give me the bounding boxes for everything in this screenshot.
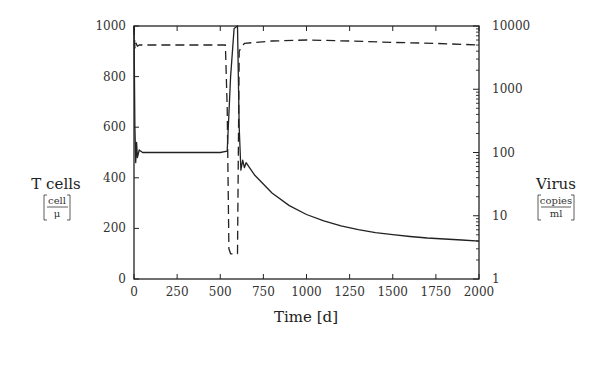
x-tick-label: 250 bbox=[166, 285, 189, 299]
x-tick-label: 2000 bbox=[464, 285, 495, 299]
svg-text:cell: cell bbox=[48, 195, 66, 206]
svg-text:Virus: Virus bbox=[535, 175, 576, 193]
y-right-tick-label: 10000 bbox=[492, 19, 530, 33]
tcell-series-line bbox=[134, 26, 479, 241]
x-tick-label: 1750 bbox=[421, 285, 452, 299]
chart: 025050075010001250150017502000 020040060… bbox=[0, 0, 609, 367]
y-right-tick-label: 100 bbox=[492, 146, 515, 160]
y-left-tick-label: 400 bbox=[103, 171, 126, 185]
y-left-tick-label: 0 bbox=[118, 272, 126, 286]
y-right-tick-label: 1000 bbox=[492, 82, 523, 96]
y-right-axis-ticks: 110100100010000 bbox=[473, 19, 530, 286]
y-left-axis-ticks: 02004006008001000 bbox=[95, 19, 139, 286]
x-tick-label: 750 bbox=[252, 285, 275, 299]
x-tick-label: 0 bbox=[130, 285, 138, 299]
x-axis-title: Time [d] bbox=[274, 308, 338, 326]
y-right-axis-title: Virus copies ml bbox=[535, 175, 576, 220]
series-layer bbox=[134, 26, 479, 254]
x-tick-label: 500 bbox=[209, 285, 232, 299]
svg-text:T cells: T cells bbox=[31, 175, 80, 193]
svg-text:copies: copies bbox=[540, 195, 572, 206]
virus-series-line bbox=[134, 26, 479, 254]
y-right-tick-label: 1 bbox=[492, 272, 500, 286]
x-tick-label: 1250 bbox=[334, 285, 365, 299]
y-left-tick-label: 600 bbox=[103, 120, 126, 134]
svg-text:μ: μ bbox=[54, 208, 61, 219]
x-axis-ticks: 025050075010001250150017502000 bbox=[130, 26, 494, 299]
y-left-tick-label: 200 bbox=[103, 221, 126, 235]
x-tick-label: 1500 bbox=[377, 285, 408, 299]
y-right-tick-label: 10 bbox=[492, 209, 507, 223]
y-left-tick-label: 800 bbox=[103, 70, 126, 84]
svg-text:ml: ml bbox=[550, 208, 563, 219]
y-left-tick-label: 1000 bbox=[95, 19, 126, 33]
x-tick-label: 1000 bbox=[291, 285, 322, 299]
y-left-axis-title: T cells cell μ bbox=[31, 175, 80, 220]
